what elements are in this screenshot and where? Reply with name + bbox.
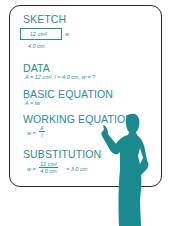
person-pointing-silhouette-icon — [0, 0, 174, 226]
